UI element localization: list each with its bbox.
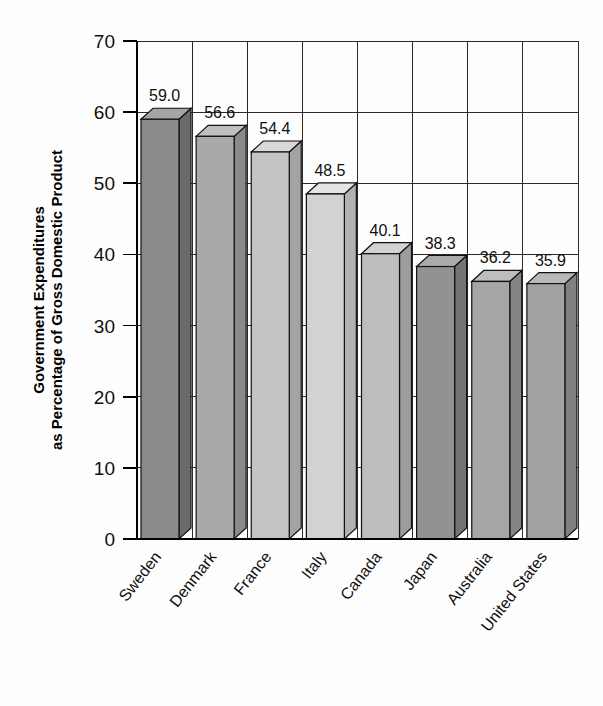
bar-side-face [344,183,356,539]
y-axis-tick-label: 70 [94,31,115,52]
bar-front-face [251,152,289,539]
y-axis-tick-label: 60 [94,102,115,123]
bar-side-face [400,243,412,539]
bar-front-face [196,136,234,539]
y-axis-tick-label: 30 [94,316,115,337]
bar-front-face [527,284,565,539]
bar-side-face [510,270,522,539]
bar-denmark[interactable] [196,125,246,539]
bar-side-face [455,256,467,539]
bar-canada[interactable] [362,243,412,539]
bar-front-face [417,267,455,539]
bar-value-label: 56.6 [204,104,235,121]
bar-value-label: 38.3 [425,235,456,252]
y-axis-tick-label: 50 [94,173,115,194]
bar-side-face [289,141,301,539]
bar-france[interactable] [251,141,301,539]
bar-value-label: 36.2 [480,249,511,266]
y-axis-tick-label: 0 [104,529,115,550]
bar-front-face [141,119,179,539]
bar-value-label: 40.1 [370,222,401,239]
bar-australia[interactable] [472,270,522,539]
bar-italy[interactable] [306,183,356,539]
bar-side-face [179,108,191,539]
bar-value-label: 54.4 [259,120,290,137]
y-axis-tick-label: 10 [94,458,115,479]
bar-japan[interactable] [417,256,467,539]
bar-value-label: 48.5 [314,162,345,179]
bar-sweden[interactable] [141,108,191,539]
bar-chart: Government Expenditures as Percentage of… [0,0,603,706]
bar-side-face [234,125,246,539]
bar-front-face [306,194,344,539]
bar-front-face [472,281,510,539]
y-axis-tick-label: 20 [94,387,115,408]
y-axis-tick-label: 40 [94,244,115,265]
bar-value-label: 35.9 [535,252,566,269]
y-axis-title-line1: Government Expenditures [30,206,47,394]
bar-value-label: 59.0 [149,87,180,104]
y-axis-title-line2: as Percentage of Gross Domestic Product [48,150,65,450]
bar-united-states[interactable] [527,273,577,539]
bar-front-face [362,254,400,539]
chart-container: Government Expenditures as Percentage of… [0,0,603,706]
bar-side-face [565,273,577,539]
